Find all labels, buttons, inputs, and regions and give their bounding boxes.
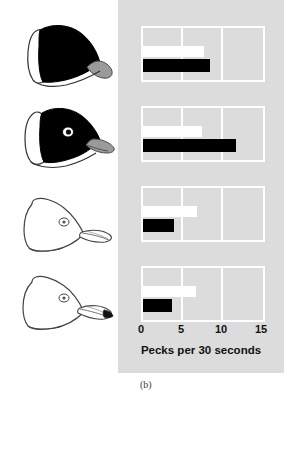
plot-block-1 [141, 26, 265, 82]
gridline-10 [221, 108, 223, 160]
bird-head-4-icon [8, 258, 118, 336]
plot-block-3 [141, 186, 265, 242]
bar-black-1 [143, 59, 210, 72]
bar-white-3 [143, 206, 197, 217]
x-axis-tick-labels: 0 5 10 15 [141, 322, 261, 338]
x-axis-title: Pecks per 30 seconds [118, 344, 284, 356]
bird-head-figure-2 [8, 97, 118, 175]
plot-block-4 [141, 266, 265, 322]
bird-head-figure-3 [8, 182, 118, 260]
bar-black-3 [143, 219, 174, 232]
x-tick-15: 15 [255, 322, 267, 336]
bar-white-4 [143, 286, 196, 297]
bar-black-4 [143, 299, 172, 312]
bird-head-3-icon [8, 182, 118, 260]
gridline-10 [221, 188, 223, 240]
bird-head-1-icon [8, 16, 118, 94]
x-tick-0: 0 [138, 322, 144, 336]
chart-panel: 0 5 10 15 Pecks per 30 seconds [118, 0, 284, 373]
x-tick-5: 5 [178, 322, 184, 336]
gridline-10 [221, 28, 223, 80]
figure-caption: (b) [140, 379, 152, 390]
bird-head-figure-4 [8, 258, 118, 336]
bar-black-2 [143, 139, 236, 152]
bird-illustration-column [0, 0, 118, 454]
gridline-10 [221, 268, 223, 320]
bar-white-1 [143, 46, 204, 57]
plot-block-2 [141, 106, 265, 162]
bar-white-2 [143, 126, 202, 137]
bird-head-2-icon [8, 97, 118, 175]
bird-head-figure-1 [8, 16, 118, 94]
x-tick-10: 10 [215, 322, 227, 336]
